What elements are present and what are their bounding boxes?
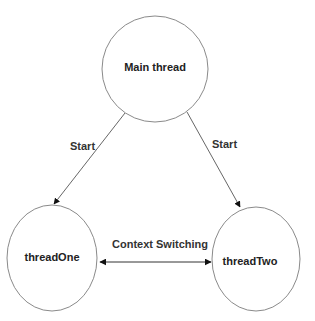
edge-context-switching: Context Switching: [100, 238, 211, 262]
context-switching-label: Context Switching: [112, 238, 208, 250]
start-label-right: Start: [212, 138, 237, 150]
start-label-left: Start: [70, 140, 95, 152]
main-thread-label: Main thread: [124, 61, 186, 73]
thread-one-label: threadOne: [24, 251, 79, 263]
arrow-start-thread-one: [54, 113, 125, 204]
thread-diagram: Main thread threadOne threadTwo Start St…: [0, 0, 315, 321]
node-main-thread: Main thread: [102, 16, 208, 122]
thread-two-label: threadTwo: [223, 255, 278, 267]
edge-start-thread-two: Start: [187, 112, 240, 207]
node-thread-one: threadOne: [7, 205, 97, 311]
edge-start-thread-one: Start: [54, 113, 125, 204]
arrow-start-thread-two: [187, 112, 240, 207]
node-thread-two: threadTwo: [212, 207, 300, 311]
